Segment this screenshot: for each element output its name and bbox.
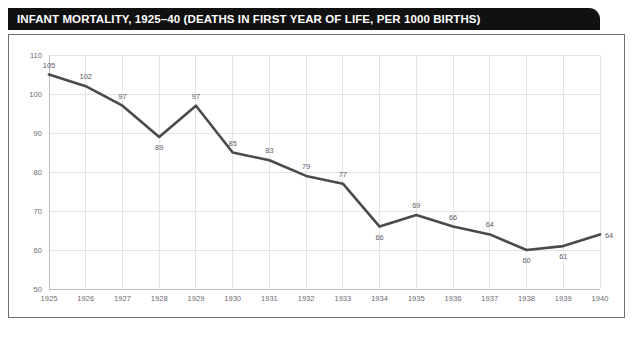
data-point-label: 105 [43, 61, 55, 70]
data-point-label: 97 [192, 92, 200, 101]
data-point-label: 66 [375, 233, 383, 242]
y-tick-label: 70 [34, 207, 42, 216]
x-tick-label: 1933 [334, 294, 351, 303]
x-tick-label: 1937 [481, 294, 498, 303]
line-chart-svg: 5060708090100110 19251926192719281929193… [9, 35, 626, 319]
data-point-label: 97 [118, 92, 126, 101]
data-point-label: 60 [522, 256, 530, 265]
x-tick-label: 1939 [555, 294, 572, 303]
chart-panel: 5060708090100110 19251926192719281929193… [8, 34, 625, 318]
data-point-label: 85 [229, 139, 237, 148]
x-tick-label: 1931 [261, 294, 278, 303]
data-point-label: 64 [486, 220, 494, 229]
y-tick-label: 50 [34, 285, 42, 294]
data-point-label: 83 [265, 146, 273, 155]
x-tick-label: 1936 [445, 294, 462, 303]
y-tick-label: 60 [34, 246, 42, 255]
x-tick-label: 1927 [114, 294, 131, 303]
y-axis-tick-labels: 5060708090100110 [29, 51, 42, 294]
x-tick-label: 1925 [41, 294, 58, 303]
x-tick-label: 1930 [224, 294, 241, 303]
data-point-label: 102 [80, 72, 92, 81]
data-point-labels: 1051029789978583797766696664606164 [43, 61, 613, 266]
plot-area: 5060708090100110 19251926192719281929193… [9, 35, 626, 319]
y-tick-label: 80 [34, 168, 42, 177]
x-tick-label: 1940 [592, 294, 609, 303]
data-point-label: 79 [302, 162, 310, 171]
x-axis-tick-labels: 1925192619271928192919301931193219331934… [41, 294, 609, 303]
y-tick-label: 100 [29, 90, 42, 99]
x-tick-label: 1932 [298, 294, 315, 303]
y-tick-label: 110 [30, 51, 42, 60]
infant-mortality-figure: INFANT MORTALITY, 1925–40 (DEATHS IN FIR… [0, 0, 639, 338]
x-tick-label: 1928 [151, 294, 168, 303]
chart-title: INFANT MORTALITY, 1925–40 (DEATHS IN FIR… [8, 13, 481, 25]
mortality-series-line [49, 75, 600, 251]
chart-title-bar: INFANT MORTALITY, 1925–40 (DEATHS IN FIR… [8, 8, 600, 30]
data-point-label: 66 [449, 213, 457, 222]
x-tick-label: 1935 [408, 294, 425, 303]
y-tick-label: 90 [34, 129, 42, 138]
x-tick-label: 1938 [518, 294, 535, 303]
x-tick-label: 1934 [371, 294, 388, 303]
data-point-label: 77 [339, 170, 347, 179]
x-tick-label: 1926 [77, 294, 94, 303]
horizontal-gridlines [49, 55, 600, 289]
data-point-label: 89 [155, 143, 163, 152]
data-point-label: 61 [559, 252, 567, 261]
x-tick-label: 1929 [187, 294, 204, 303]
data-point-label: 69 [412, 201, 420, 210]
data-point-label: 64 [605, 231, 613, 240]
